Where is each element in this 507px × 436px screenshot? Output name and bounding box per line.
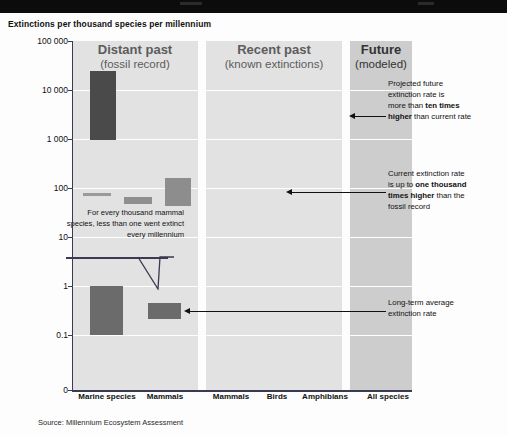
gridline-1000 — [72, 139, 412, 140]
top-band-mark-right — [418, 2, 434, 5]
future-annotation-arrow-line — [355, 116, 386, 117]
longterm-anno-line1: Long-term average — [388, 298, 454, 307]
panel-distant-past-subtitle: (fossil record) — [72, 58, 198, 71]
panel-recent-past-title: Recent past — [206, 43, 342, 58]
plot-area: Distant past (fossil record) Recent past… — [72, 41, 412, 390]
y-tick-0.1 — [68, 335, 72, 336]
panel-distant-past-title: Distant past — [72, 43, 198, 58]
future-anno-line3-plain: more than — [388, 101, 425, 110]
y-tick-label-100: 100 — [54, 183, 68, 193]
panel-recent-past: Recent past (known extinctions) — [206, 41, 342, 390]
longterm-annotation-arrow-head-icon — [184, 308, 190, 314]
y-tick-1000 — [68, 139, 72, 140]
gridline-1 — [72, 286, 412, 287]
y-axis-line — [72, 41, 73, 390]
bar-birds-recent — [124, 197, 152, 204]
current-anno-line1: Current extinction rate — [388, 169, 465, 178]
current-anno-line2-plain: is up to — [388, 180, 415, 189]
x-tick-label-amphibians: Amphibians — [294, 393, 356, 402]
longterm-anno-line2: extinction rate — [388, 309, 437, 318]
future-annotation-arrow-head-icon — [349, 113, 355, 119]
page-title: Extinctions per thousand species per mil… — [8, 19, 211, 29]
y-tick-1 — [68, 286, 72, 287]
current-anno-line4: fossil record — [388, 202, 430, 211]
x-tick-label-birds: Birds — [258, 393, 296, 402]
current-annotation-arrow-head-icon — [286, 189, 292, 195]
source-caption: Source: Millennium Ecosystem Assessment — [38, 418, 183, 427]
current-anno-line2-bold: one thousand — [415, 180, 466, 189]
gridline-100 — [72, 188, 412, 189]
current-anno-line3-plain: than the — [434, 191, 464, 200]
bar-amphibians-recent — [165, 178, 191, 206]
future-rate-annotation: Projected future extinction rate is more… — [388, 78, 496, 122]
future-anno-line2: extinction rate is — [388, 90, 444, 99]
y-tick-label-10000: 10 000 — [42, 85, 68, 95]
panel-recent-past-header: Recent past (known extinctions) — [206, 43, 342, 71]
inline-note-leader-icon — [138, 256, 178, 290]
bar-mammals-fossil — [148, 303, 181, 319]
current-rate-annotation: Current extinction rate is up to one tho… — [388, 168, 496, 212]
panel-future-title: Future — [350, 43, 412, 58]
future-anno-line4-plain: than current rate — [412, 112, 471, 121]
x-axis-labels: Marine species Mammals Mammals Birds Amp… — [72, 393, 412, 415]
inline-note-text: For every thousand mammal species, less … — [66, 208, 184, 240]
top-band-mark-left — [180, 2, 202, 5]
panel-future-subtitle: (modeled) — [350, 58, 412, 71]
y-tick-10000 — [68, 90, 72, 91]
future-anno-line1: Projected future — [388, 79, 443, 88]
y-tick-100000 — [68, 41, 72, 42]
y-tick-label-0.1: 0.1 — [56, 330, 68, 340]
gridline-0.1 — [72, 335, 412, 336]
longterm-annotation-arrow-line — [190, 311, 386, 312]
panel-recent-past-subtitle: (known extinctions) — [206, 58, 342, 71]
y-tick-label-1000: 1 000 — [47, 134, 68, 144]
y-tick-100 — [68, 188, 72, 189]
future-anno-line4-bold: higher — [388, 112, 412, 121]
panel-distant-past-header: Distant past (fossil record) — [72, 43, 198, 71]
panel-future-header: Future (modeled) — [350, 43, 412, 71]
y-tick-label-100000: 100 000 — [37, 36, 68, 46]
bar-marine-species — [90, 286, 123, 335]
current-annotation-arrow-line — [292, 192, 386, 193]
x-tick-label-mammals-fossil: Mammals — [136, 393, 194, 402]
y-tick-10 — [68, 237, 72, 238]
bar-mammals-recent — [83, 193, 111, 196]
page-top-band — [0, 0, 507, 13]
chart-root: Extinctions per thousand species per mil… — [0, 0, 507, 436]
x-tick-label-mammals-recent: Mammals — [204, 393, 258, 402]
y-axis-labels: 100 000 10 000 1 000 100 10 1 0.1 0 — [0, 41, 68, 390]
x-tick-label-all-species: All species — [360, 393, 416, 402]
long-term-rate-annotation: Long-term average extinction rate — [388, 297, 496, 319]
bar-all-species-future — [90, 71, 116, 140]
x-tick-label-marine-species: Marine species — [78, 393, 136, 402]
current-anno-line3-bold: times higher — [388, 191, 434, 200]
future-anno-line3-bold: ten times — [425, 101, 459, 110]
gridline-10000 — [72, 90, 412, 91]
y-tick-0 — [68, 390, 72, 391]
